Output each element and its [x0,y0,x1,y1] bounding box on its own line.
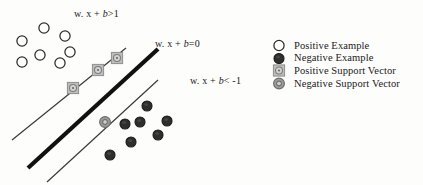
series-open-circle [17,23,75,68]
data-point-filled-circle [162,116,172,126]
svm-margin-figure: w. x + b>1 w. x + b=0 w. x + b< -1 Posit… [0,0,423,185]
legend-item-label: Negative Support Vector [287,78,400,89]
data-point-filled-circle [153,130,163,140]
legend-item-3: Negative Support Vector [271,77,421,90]
equation-prefix: w. x + [155,38,184,49]
ring-support-vector-icon [271,77,287,90]
data-point-open-circle [65,47,75,57]
data-point-filled-circle [126,137,136,147]
legend-item-label: Negative Example [287,52,373,63]
data-point-open-circle [55,58,65,68]
data-point-open-circle [17,57,27,67]
data-point-open-circle [35,50,45,60]
legend: Positive ExampleNegative ExamplePositive… [271,39,421,89]
legend-item-label: Positive Example [287,40,369,51]
margin-positive-equation-label: w. x + b>1 [74,8,119,19]
data-point-open-circle [39,23,49,33]
negative-margin-line [47,80,158,182]
data-point-square-support-vector [67,82,78,93]
data-point-open-circle [60,31,70,41]
series-ring-support-vector [100,117,111,128]
data-point-filled-circle [135,117,145,127]
data-point-open-circle [17,36,27,46]
legend-item-1: Negative Example [271,52,421,65]
equation-prefix: w. x + [190,75,219,86]
legend-item-0: Positive Example [271,39,421,52]
square-support-vector-icon [271,64,287,77]
data-point-filled-circle [120,119,130,129]
equation-prefix: w. x + [74,8,103,19]
data-point-square-support-vector [111,52,122,63]
legend-item-2: Positive Support Vector [271,64,421,77]
open-circle-icon [271,39,287,52]
data-point-filled-circle [142,101,152,111]
equation-suffix: =0 [189,38,200,49]
data-point-filled-circle [105,150,115,160]
separating-lines-group [12,48,158,182]
equation-suffix: >1 [108,8,119,19]
equation-suffix: < -1 [224,75,241,86]
legend-item-label: Positive Support Vector [287,65,396,76]
data-points-group [17,23,172,160]
series-filled-circle [105,101,172,160]
filled-circle-icon [271,52,287,65]
svm-plot-canvas [0,0,423,185]
data-point-square-support-vector [92,64,103,75]
margin-negative-equation-label: w. x + b< -1 [190,75,241,86]
data-point-ring-support-vector [100,117,111,128]
hyperplane-equation-label: w. x + b=0 [155,38,200,49]
